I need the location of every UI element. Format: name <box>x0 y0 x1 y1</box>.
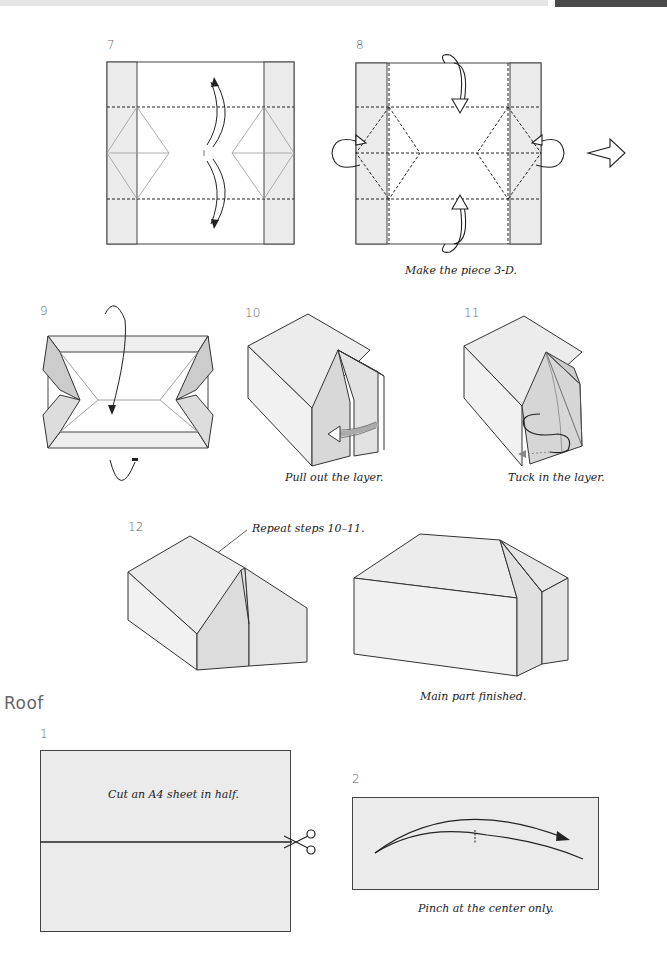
roof-step-2-caption: Pinch at the center only. <box>418 902 554 915</box>
roof-step-2-diagram <box>352 797 602 892</box>
step-10-caption: Pull out the layer. <box>285 471 384 484</box>
roof-step-1-diagram <box>40 750 320 935</box>
step-9-diagram <box>40 300 220 490</box>
step-11-caption: Tuck in the layer. <box>508 471 605 484</box>
page-header-bar <box>0 0 548 6</box>
roof-step-1-caption: Cut an A4 sheet in half. <box>108 788 239 801</box>
step-12-diagram <box>125 520 315 675</box>
finished-main-part-diagram <box>352 532 572 682</box>
step-10-diagram <box>240 312 435 472</box>
roof-step-2-number: 2 <box>352 772 360 786</box>
finished-caption: Main part finished. <box>420 690 526 703</box>
page-header-tab <box>555 0 667 7</box>
section-title-roof: Roof <box>4 693 44 713</box>
roof-step-1-number: 1 <box>40 727 48 741</box>
step-8-number: 8 <box>356 38 364 52</box>
step-11-diagram <box>462 314 642 474</box>
step-8-caption: Make the piece 3-D. <box>405 264 517 277</box>
step-7-number: 7 <box>107 38 115 52</box>
step-7-diagram <box>107 62 295 245</box>
step-8-diagram <box>320 55 640 255</box>
